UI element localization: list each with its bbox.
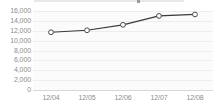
data-series-layer [33, 11, 213, 90]
y-axis-tick-label: 2,000 [0, 76, 31, 83]
data-point-marker [85, 28, 90, 33]
clipped-top-edge-element [34, 0, 184, 2]
x-axis-tick-label: 12/08 [186, 94, 203, 102]
data-point-marker [157, 14, 162, 19]
y-axis-tick-label: 14,000 [0, 17, 31, 24]
y-axis-tick-labels: 16,00014,00012,00010,0008,0006,0004,0002… [0, 11, 31, 90]
y-axis-tick-label: 6,000 [0, 56, 31, 63]
y-axis-tick-label: 4,000 [0, 66, 31, 73]
x-axis-tick-label: 12/04 [42, 94, 59, 102]
x-axis-tick-label: 12/05 [78, 94, 95, 102]
y-axis-tick-label: 8,000 [0, 47, 31, 54]
gridline [33, 90, 213, 91]
y-axis-tick-label: 10,000 [0, 37, 31, 44]
x-axis-tick-label: 12/06 [114, 94, 131, 102]
x-axis-tick-labels: 12/0412/0512/0612/0712/08 [33, 94, 213, 106]
clipped-top-marker-icon [137, 0, 140, 3]
y-axis-tick-label: 0 [0, 86, 31, 93]
y-axis-tick-label: 12,000 [0, 27, 31, 34]
line-chart-widget: 16,00014,00012,00010,0008,0006,0004,0002… [0, 0, 218, 110]
data-point-marker [49, 30, 54, 35]
y-axis-tick-label: 16,000 [0, 7, 31, 14]
data-point-marker [121, 22, 126, 27]
data-point-marker [193, 12, 198, 17]
x-axis-tick-label: 12/07 [150, 94, 167, 102]
